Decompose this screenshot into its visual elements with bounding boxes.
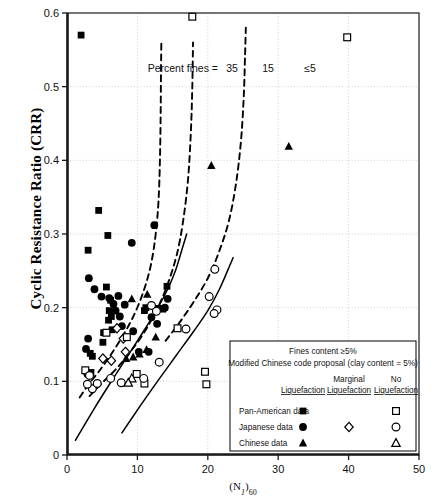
data-point-open-square (133, 371, 140, 378)
legend-marker-open-square (393, 408, 400, 415)
data-point-filled-square (141, 307, 148, 314)
y-tick-label: 0.5 (44, 81, 59, 93)
x-axis-ticks: 01020304050 (64, 455, 425, 475)
x-tick-label: 30 (272, 463, 284, 475)
data-point-filled-circle (82, 345, 90, 353)
data-point-open-circle (93, 380, 101, 388)
data-point-open-square (123, 334, 130, 341)
data-point-filled-square (78, 32, 85, 39)
data-point-open-circle (107, 374, 115, 382)
data-point-open-circle (211, 265, 219, 273)
data-point-filled-circle (164, 295, 172, 303)
x-title-part1: (N (229, 480, 241, 493)
legend-marker-filled-circle (299, 423, 307, 431)
data-point-filled-circle (121, 301, 129, 309)
legend-col-marginal-line1: Marginal (333, 375, 365, 384)
y-tick-label: 0.2 (44, 302, 59, 314)
data-point-open-circle (210, 310, 218, 318)
data-point-filled-circle (112, 307, 120, 315)
curve-label-5: ≤5 (304, 62, 316, 74)
legend-header-line2: Modified Chinese code proposal (clay con… (228, 359, 418, 368)
chart-root: Cyclic Resistance Ratio (CRR) 0102030405… (0, 0, 434, 500)
y-tick-label: 0 (53, 449, 59, 461)
data-point-filled-circle (128, 239, 136, 247)
data-point-filled-circle (84, 335, 92, 343)
y-tick-label: 0.3 (44, 228, 59, 240)
data-point-open-circle (84, 380, 92, 388)
data-point-open-square (103, 329, 110, 336)
legend-col-marginal-line2: Liquefaction (327, 386, 372, 395)
data-point-filled-circle (114, 292, 122, 300)
data-point-filled-square (95, 207, 102, 214)
data-point-open-circle (86, 372, 94, 380)
crr-liquefaction-chart: 01020304050 00.10.20.30.40.50.6 Percent … (0, 0, 434, 500)
data-point-filled-circle (150, 221, 158, 229)
data-point-open-circle (155, 358, 163, 366)
data-point-filled-circle (85, 274, 93, 282)
data-point-open-square (344, 34, 351, 41)
data-point-open-square (203, 381, 210, 388)
data-point-open-circle (205, 293, 213, 301)
legend-marker-filled-square (300, 408, 307, 415)
y-axis-ticks: 00.10.20.30.40.50.6 (44, 7, 67, 461)
data-point-filled-square (100, 339, 107, 346)
legend-box (230, 341, 416, 451)
legend-header-line1: Fines content ≥5% (289, 347, 357, 356)
data-point-filled-circle (110, 300, 118, 308)
data-point-open-circle (140, 374, 148, 382)
data-point-open-square (202, 368, 209, 375)
x-axis-title: (N1)60 (229, 480, 256, 497)
svg-text:(N1)60: (N1)60 (229, 480, 256, 497)
data-point-open-square (174, 325, 181, 332)
data-point-filled-square (85, 247, 92, 254)
y-tick-label: 0.4 (44, 154, 59, 166)
legend-col-liq-line2: Liquefaction (281, 386, 326, 395)
legend-col-noliq-line2: Liquefaction (374, 386, 419, 395)
legend-row-label: Pan-American data (239, 407, 310, 416)
legend[interactable]: Fines content ≥5% Modified Chinese code … (228, 341, 418, 451)
data-point-filled-circle (161, 304, 169, 312)
data-point-filled-square (104, 232, 111, 239)
percent-fines-label: Percent fines = (148, 62, 218, 74)
legend-row-label: Chinese data (239, 439, 288, 448)
data-point-filled-square (89, 353, 96, 360)
x-tick-label: 40 (342, 463, 354, 475)
data-point-open-circle (182, 325, 190, 333)
legend-col-noliq-line1: No (391, 375, 402, 384)
curve-label-15: 15 (262, 62, 274, 74)
legend-row-label: Japanese data (239, 423, 293, 432)
x-tick-label: 20 (202, 463, 214, 475)
data-point-open-circle (153, 307, 161, 315)
x-tick-label: 0 (64, 463, 70, 475)
data-point-filled-circle (91, 285, 99, 293)
x-tick-label: 10 (131, 463, 143, 475)
data-point-filled-square (103, 284, 110, 291)
data-point-filled-square (106, 307, 113, 314)
y-tick-label: 0.1 (44, 375, 59, 387)
y-tick-label: 0.6 (44, 7, 59, 19)
legend-marker-open-circle (392, 423, 400, 431)
data-point-filled-circle (153, 320, 161, 328)
data-point-open-square (189, 13, 196, 20)
x-title-sub2: 60 (249, 488, 257, 497)
data-point-filled-square (164, 283, 171, 290)
curve-label-35: 35 (226, 62, 238, 74)
x-tick-label: 50 (413, 463, 425, 475)
data-point-filled-circle (98, 293, 106, 301)
data-point-filled-square (105, 317, 112, 324)
